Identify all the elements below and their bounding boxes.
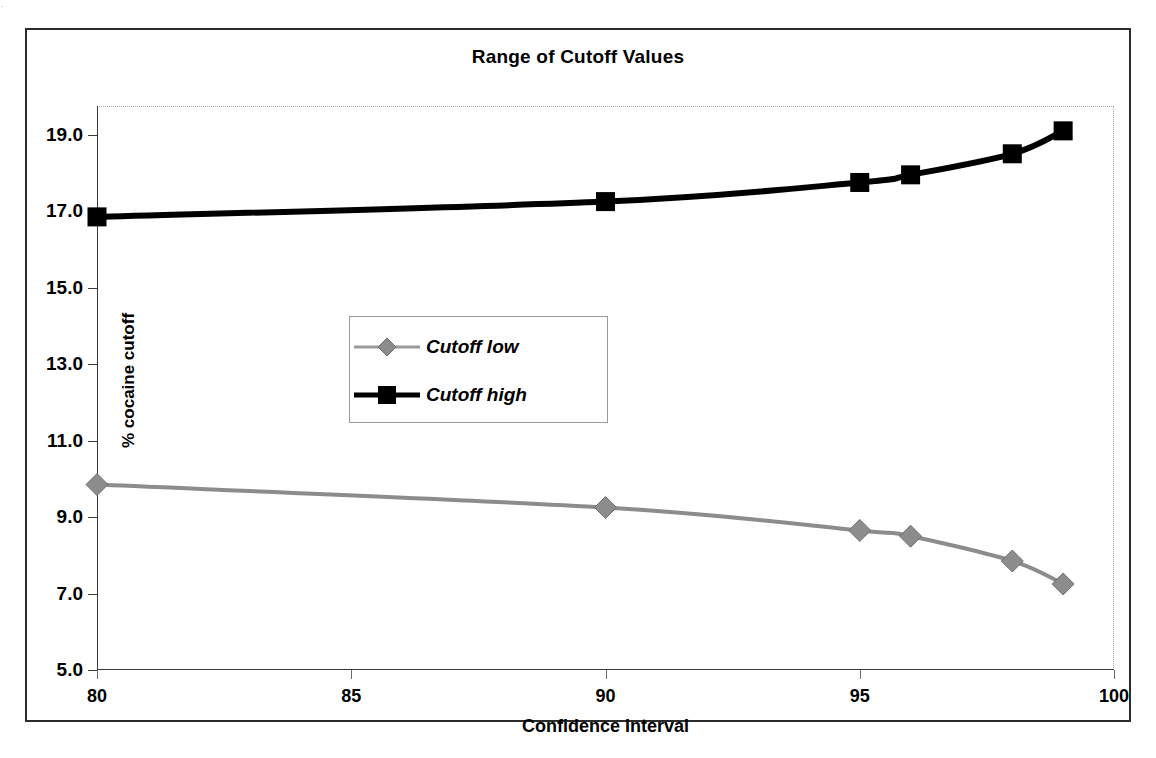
series-cutoff-high — [88, 121, 1073, 226]
data-point — [1054, 121, 1073, 140]
x-axis-title: Confidence Interval — [97, 716, 1114, 737]
x-tick-label: 80 — [87, 686, 107, 707]
y-axis-title: % cocaine cutoff — [119, 313, 139, 448]
y-tick — [88, 441, 97, 442]
y-tick — [88, 288, 97, 289]
data-point — [1001, 550, 1023, 572]
legend-item-cutoff-low: Cutoff low — [350, 327, 607, 367]
x-tick-label: 85 — [341, 686, 361, 707]
y-tick-label: 17.0 — [46, 200, 83, 222]
y-tick-label: 5.0 — [57, 659, 83, 681]
data-point — [849, 519, 871, 541]
data-point — [901, 165, 920, 184]
legend-swatch-diamond-icon — [350, 334, 424, 360]
data-point — [900, 525, 922, 547]
y-tick-label: 9.0 — [57, 506, 83, 528]
legend-swatch-square-icon — [350, 382, 424, 408]
data-point — [1052, 573, 1074, 595]
y-tick — [88, 135, 97, 136]
x-tick-label: 95 — [850, 686, 870, 707]
data-point — [596, 192, 615, 211]
y-tick-label: 11.0 — [47, 430, 83, 452]
x-tick-label: 90 — [595, 686, 615, 707]
y-tick-label: 15.0 — [46, 277, 83, 299]
data-point — [850, 173, 869, 192]
x-tick — [1114, 670, 1115, 679]
x-tick-label: 100 — [1099, 686, 1129, 707]
x-tick — [351, 670, 352, 679]
y-tick — [88, 517, 97, 518]
x-tick — [97, 670, 98, 679]
y-tick-label: 13.0 — [46, 353, 83, 375]
x-tick — [606, 670, 607, 679]
y-tick-label: 7.0 — [57, 583, 83, 605]
y-tick — [88, 364, 97, 365]
legend-label-cutoff-low: Cutoff low — [426, 336, 519, 358]
x-tick — [860, 670, 861, 679]
data-point — [1003, 144, 1022, 163]
chart-title: Range of Cutoff Values — [0, 46, 1156, 68]
scan-artifact: · — [0, 0, 1156, 22]
data-point — [88, 207, 107, 226]
legend: Cutoff low Cutoff high — [349, 316, 608, 423]
legend-item-cutoff-high: Cutoff high — [350, 375, 607, 415]
y-tick — [88, 594, 97, 595]
y-tick — [88, 670, 97, 671]
legend-label-cutoff-high: Cutoff high — [426, 384, 527, 406]
data-point — [595, 496, 617, 518]
y-tick-label: 19.0 — [46, 124, 83, 146]
series-cutoff-low — [86, 474, 1074, 595]
